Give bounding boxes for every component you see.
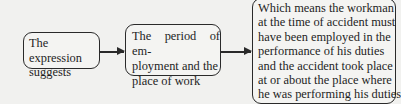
node-text: and the accident took place	[258, 59, 395, 73]
node-text: ployment and the	[132, 59, 220, 74]
node-text: The expression	[29, 36, 99, 65]
node-text: Which means the workman	[258, 1, 395, 15]
node-text: have been employed in the	[258, 30, 395, 44]
node-text: he was performing his duties	[258, 87, 395, 101]
node-expression: The expression suggests	[23, 32, 100, 69]
node-text: The period of em-	[132, 29, 220, 59]
node-text: place of work	[132, 74, 220, 89]
node-text: at the time of accident must	[258, 15, 395, 29]
node-text: suggests	[29, 65, 99, 80]
node-text: performance of his duties	[258, 44, 395, 58]
node-text: at or about the place where	[258, 73, 395, 87]
arrow-right-icon	[221, 51, 251, 53]
node-period: The period of em- ployment and the place…	[125, 24, 221, 76]
node-meaning: Which means the workman at the time of a…	[252, 0, 396, 104]
arrow-right-icon	[100, 51, 124, 53]
